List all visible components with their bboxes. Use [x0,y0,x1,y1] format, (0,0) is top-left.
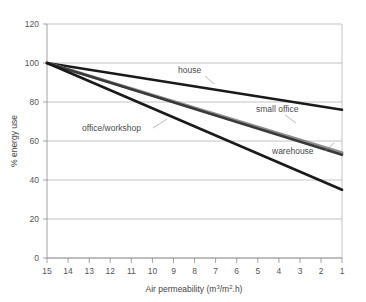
x-tick-label: 1 [340,266,345,276]
x-tick-label: 11 [127,266,136,276]
x-tick-label: 15 [42,266,52,276]
leader-line-office-workshop [153,119,167,128]
x-tick-label: 3 [298,266,303,276]
x-axis-title: Air permeability (m3/m2.h) [146,284,243,294]
x-tickmarks [47,258,342,263]
energy-use-line-chart: 120 100 80 60 40 20 0 [0,0,366,302]
x-tick-label: 13 [84,266,94,276]
series-label-small-office: small office [256,104,299,114]
x-tick-label: 12 [105,266,115,276]
x-axis-title-main: Air permeability (m [146,284,217,294]
y-tick-label: 0 [34,253,39,263]
y-axis-title: % energy use [9,115,19,167]
series-label-house: house [178,65,201,75]
y-tick-label: 60 [30,136,40,146]
x-tick-label: 9 [171,266,176,276]
x-axis-title-mid: /m [220,284,229,294]
x-tick-label: 5 [255,266,260,276]
y-tick-label: 100 [25,58,39,68]
y-tick-label: 80 [30,97,40,107]
y-tick-label: 20 [30,214,40,224]
y-tick-labels: 120 100 80 60 40 20 0 [25,19,39,263]
x-axis-title-tail: .h) [233,284,243,294]
x-tick-label: 6 [234,266,239,276]
x-tick-label: 8 [192,266,197,276]
y-tick-label: 120 [25,19,39,29]
chart-container: 120 100 80 60 40 20 0 [0,0,366,302]
series-label-warehouse: warehouse [271,146,314,156]
x-tick-label: 4 [277,266,282,276]
annotation-leaders [153,76,334,151]
x-tick-label: 10 [148,266,158,276]
series-label-office-workshop: office/workshop [82,123,141,133]
x-tick-label: 7 [213,266,218,276]
x-tick-label: 14 [63,266,73,276]
y-tick-label: 40 [30,175,40,185]
x-tick-label: 2 [319,266,324,276]
y-tickmarks [43,24,47,258]
x-tick-labels: 15 14 13 12 11 10 9 8 7 6 5 4 3 2 1 [42,266,344,276]
leader-line-small-office [285,115,296,123]
leader-line-house [205,76,214,84]
